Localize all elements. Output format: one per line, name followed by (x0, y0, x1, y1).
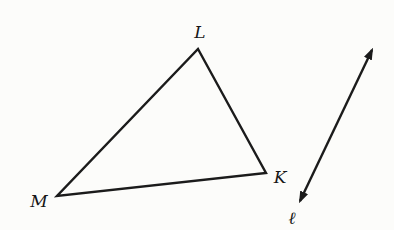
line-l (300, 50, 372, 201)
vertex-label-M: M (29, 191, 48, 211)
diagram-canvas: L K M ℓ (0, 0, 394, 230)
geometry-figure: L K M ℓ (0, 0, 394, 230)
line-label-ell: ℓ (288, 208, 295, 228)
vertex-label-L: L (193, 22, 205, 42)
vertex-label-K: K (273, 167, 288, 187)
triangle-LMK (57, 49, 266, 196)
